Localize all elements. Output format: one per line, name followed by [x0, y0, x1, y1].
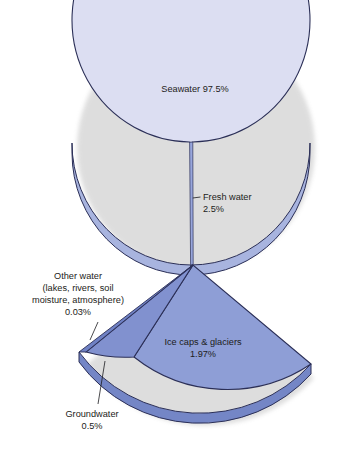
- label-ice-caps-line1: Ice caps & glaciers: [164, 337, 242, 347]
- label-groundwater-line2: 0.5%: [82, 421, 103, 431]
- water-distribution-pie-chart: Seawater 97.5% Fresh water 2.5% Other wa…: [0, 0, 341, 469]
- label-fresh-water-line2: 2.5%: [203, 204, 224, 214]
- label-other-water-line4: 0.03%: [65, 307, 91, 317]
- fresh-water-sliver[interactable]: [190, 142, 194, 265]
- label-ice-caps-line2: 1.97%: [190, 349, 216, 359]
- label-seawater: Seawater 97.5%: [161, 84, 228, 94]
- label-other-water-line3: moisture, atmosphere): [32, 295, 124, 305]
- label-other-water-line2: (lakes, rivers, soil: [43, 283, 114, 293]
- label-other-water-line1: Other water: [54, 271, 102, 281]
- label-fresh-water-line1: Fresh water: [203, 192, 252, 202]
- label-groundwater-line1: Groundwater: [65, 409, 118, 419]
- slice-fresh-water[interactable]: [190, 142, 194, 265]
